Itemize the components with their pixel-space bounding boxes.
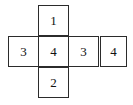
net-cell-middle-right: 4 xyxy=(100,36,127,67)
net-cell-bottom-label: 2 xyxy=(50,76,57,89)
net-cell-middle-left: 3 xyxy=(8,36,39,67)
net-cell-bottom: 2 xyxy=(38,67,69,98)
net-cell-middle-left-label: 3 xyxy=(20,45,27,58)
net-cell-middle-right-label: 4 xyxy=(110,45,117,58)
net-cell-middle-outer: 3 xyxy=(68,36,99,67)
net-cell-middle-inner-label: 4 xyxy=(50,45,57,58)
net-cell-middle-inner: 4 xyxy=(38,36,69,67)
net-cell-top-label: 1 xyxy=(50,14,57,27)
net-cell-top: 1 xyxy=(38,5,69,36)
cube-net-diagram: 1 3 4 3 4 2 xyxy=(0,0,133,105)
net-cell-middle-outer-label: 3 xyxy=(80,45,87,58)
